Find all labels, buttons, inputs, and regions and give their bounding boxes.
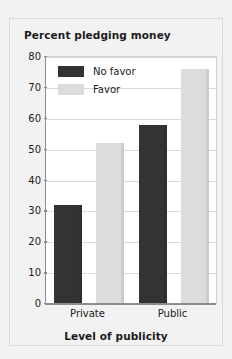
y-axis-tick-mark: [44, 149, 47, 150]
y-axis-tick-label: 30: [15, 205, 41, 216]
x-axis-tick-label: Private: [45, 308, 130, 319]
gridline: [46, 57, 216, 58]
x-axis-line: [45, 303, 216, 305]
bar-private-no-favor: [54, 205, 82, 304]
legend-label-favor: Favor: [93, 84, 120, 95]
bar-public-favor: [181, 69, 209, 304]
y-axis-tick-mark: [44, 180, 47, 181]
y-axis-tick-label: 60: [15, 112, 41, 123]
legend-item-favor: Favor: [58, 80, 150, 98]
legend-item-no-favor: No favor: [58, 62, 150, 80]
y-axis-tick-mark: [44, 87, 47, 88]
chart-title: Percent pledging money: [24, 29, 171, 41]
y-axis-tick-mark: [44, 56, 47, 57]
bar-private-favor: [96, 143, 124, 304]
y-axis-tick-mark: [44, 241, 47, 242]
bar-public-no-favor: [139, 125, 167, 304]
y-axis: 01020304050607080: [12, 56, 41, 303]
y-axis-tick-label: 20: [15, 236, 41, 247]
y-axis-tick-mark: [44, 272, 47, 273]
y-axis-tick-label: 70: [15, 81, 41, 92]
y-axis-tick-label: 80: [15, 51, 41, 62]
legend-swatch-favor: [58, 84, 84, 95]
y-axis-tick-label: 50: [15, 143, 41, 154]
y-axis-tick-mark: [44, 303, 47, 304]
y-axis-tick-mark: [44, 118, 47, 119]
y-axis-tick-label: 10: [15, 267, 41, 278]
legend-label-no-favor: No favor: [93, 66, 136, 77]
chart-figure: Percent pledging money 01020304050607080…: [0, 0, 232, 359]
legend-swatch-no-favor: [58, 66, 84, 77]
y-axis-tick-label: 40: [15, 174, 41, 185]
chart-legend: No favor Favor: [58, 62, 150, 98]
y-axis-tick-mark: [44, 210, 47, 211]
x-axis-tick-label: Public: [130, 308, 215, 319]
x-axis-title: Level of publicity: [0, 330, 232, 342]
y-axis-tick-label: 0: [15, 298, 41, 309]
